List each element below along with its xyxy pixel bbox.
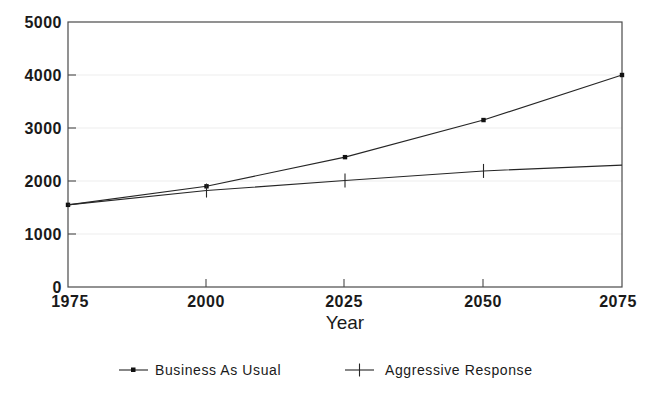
x-axis-title: Year <box>326 312 365 333</box>
x-tick-label-1975: 1975 <box>51 293 89 310</box>
legend-item-aggressive-response[interactable]: Aggressive Response <box>345 362 533 378</box>
x-tick-label-2075: 2075 <box>599 293 637 310</box>
x-tick-labels: 1975 2000 2025 2050 2075 <box>51 293 637 310</box>
y-tick-labels: 5000 4000 3000 2000 1000 0 <box>24 14 62 296</box>
legend-label-aggressive-response: Aggressive Response <box>385 362 533 378</box>
legend-item-business-as-usual[interactable]: Business As Usual <box>119 362 281 378</box>
gridlines <box>68 75 622 234</box>
y-tick-label-4000: 4000 <box>24 67 62 84</box>
data-point-dot-marker <box>620 73 624 77</box>
y-tick-label-3000: 3000 <box>24 120 62 137</box>
x-tick-label-2025: 2025 <box>325 293 363 310</box>
y-tick-label-1000: 1000 <box>24 226 62 243</box>
dot-marker-icon <box>131 368 136 373</box>
legend-label-business-as-usual: Business As Usual <box>155 362 281 378</box>
y-tickmarks <box>68 75 76 234</box>
x-tick-label-2050: 2050 <box>464 293 502 310</box>
chart-legend: Business As Usual Aggressive Response <box>119 362 533 378</box>
x-tick-label-2000: 2000 <box>187 293 225 310</box>
plot-frame <box>68 22 622 287</box>
line-chart: 5000 4000 3000 2000 1000 0 1975 2000 202… <box>0 0 654 393</box>
y-tick-label-2000: 2000 <box>24 173 62 190</box>
data-point-dot-marker <box>481 118 485 122</box>
data-point-dot-marker <box>343 155 347 159</box>
y-tick-label-5000: 5000 <box>24 14 62 31</box>
series-layer <box>66 73 624 207</box>
chart-canvas: 5000 4000 3000 2000 1000 0 1975 2000 202… <box>0 0 654 393</box>
x-tickmarks <box>206 279 483 287</box>
series-aggressive-response <box>68 164 622 205</box>
